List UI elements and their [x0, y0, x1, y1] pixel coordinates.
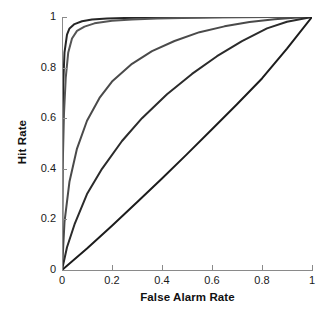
x-tick-mark: [312, 265, 313, 270]
y-axis-line: [62, 17, 63, 271]
roc-curve-medium-sensitivity: [62, 17, 312, 270]
roc-curve-low-sensitivity: [62, 17, 312, 270]
x-tick-label: 0.2: [92, 274, 132, 287]
y-tick-mark: [62, 68, 67, 69]
y-axis-title: Hit Rate: [16, 87, 28, 197]
roc-chart: 00.20.40.60.81 00.20.40.60.81 False Alar…: [0, 0, 336, 312]
y-tick-label: 0.2: [14, 212, 56, 225]
y-tick-label: 0.8: [14, 61, 56, 74]
y-tick-mark: [62, 17, 67, 18]
y-tick-label: 0: [14, 263, 56, 276]
y-tick-mark: [62, 169, 67, 170]
x-tick-mark: [162, 265, 163, 270]
x-tick-mark: [212, 265, 213, 270]
x-axis-title: False Alarm Rate: [62, 291, 313, 303]
x-tick-label: 0.4: [142, 274, 182, 287]
x-tick-label: 0.8: [242, 274, 282, 287]
plot-area: [62, 17, 312, 270]
x-axis-line: [62, 270, 313, 271]
roc-curves-svg: [62, 17, 312, 270]
x-tick-mark: [262, 265, 263, 270]
y-tick-mark: [62, 118, 67, 119]
roc-curve-highest-sensitivity: [62, 17, 312, 270]
roc-curve-chance-diagonal: [62, 17, 312, 270]
y-tick-mark: [62, 219, 67, 220]
y-tick-label: 1: [14, 10, 56, 23]
roc-curve-high-sensitivity: [62, 17, 312, 270]
x-tick-mark: [112, 265, 113, 270]
x-tick-label: 1: [292, 274, 332, 287]
y-tick-mark: [62, 270, 67, 271]
x-tick-label: 0.6: [192, 274, 232, 287]
